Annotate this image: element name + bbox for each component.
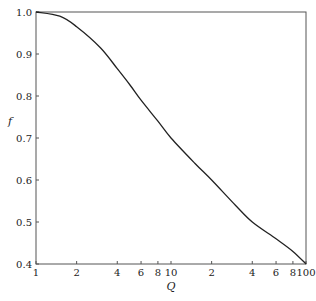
x-axis-label: Q <box>166 280 175 293</box>
data-line <box>36 12 306 264</box>
x-tick-label: 8 <box>290 267 296 278</box>
y-tick-label: 0.9 <box>16 49 32 60</box>
y-tick-label: 0.6 <box>16 175 32 186</box>
y-tick-label: 1.0 <box>16 7 32 18</box>
x-tick-label: 6 <box>273 267 279 278</box>
y-tick-label: 0.4 <box>16 259 32 270</box>
x-tick-label: 6 <box>138 267 144 278</box>
y-tick-label: 0.7 <box>16 133 32 144</box>
y-axis-label: f <box>7 115 14 128</box>
x-tick-label: 2 <box>208 267 214 278</box>
x-tick-label: 1 <box>33 267 39 278</box>
x-tick-label: 10 <box>165 267 178 278</box>
x-tick-label: 2 <box>73 267 79 278</box>
line-chart: 1.00.90.80.70.60.50.4 12468102468100 Q f <box>0 0 316 301</box>
x-tick-label: 4 <box>114 267 120 278</box>
x-tick-label: 100 <box>296 267 315 278</box>
x-tick-label: 4 <box>249 267 255 278</box>
y-tick-label: 0.8 <box>16 91 32 102</box>
x-tick-label: 8 <box>155 267 161 278</box>
y-tick-label: 0.5 <box>16 217 32 228</box>
